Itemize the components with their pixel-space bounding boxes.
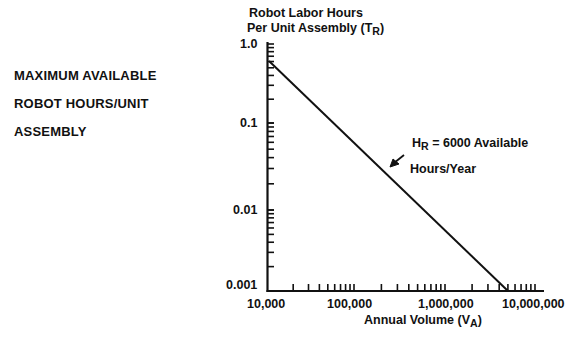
annotation-arrow-icon (390, 155, 404, 167)
data-line-hr-6000 (269, 61, 508, 291)
chart-plot (0, 0, 583, 337)
